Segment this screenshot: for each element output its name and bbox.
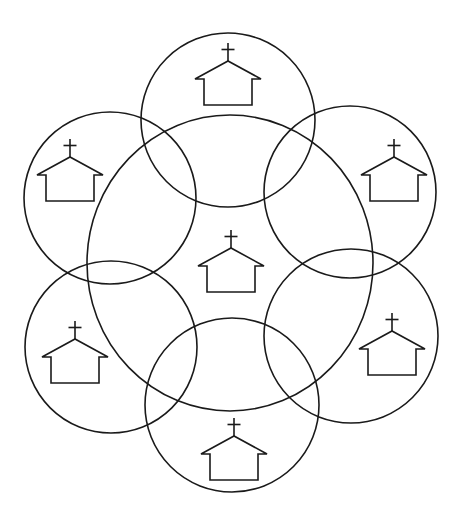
- church-icon-top-left: [37, 139, 103, 201]
- church-icon-top: [195, 43, 261, 105]
- church-icon-bottom: [201, 418, 267, 480]
- diagram-canvas: [0, 0, 461, 519]
- church-icon-center: [198, 230, 264, 292]
- church-icon-bottom-right: [359, 313, 425, 375]
- church-circles-diagram: [0, 0, 461, 519]
- circle-top-right: [264, 106, 436, 278]
- circle-bottom-left: [25, 261, 197, 433]
- church-icon-bottom-left: [42, 321, 108, 383]
- circles-layer: [24, 33, 438, 492]
- circle-bottom: [145, 318, 319, 492]
- church-icon-top-right: [361, 139, 427, 201]
- circle-top-left: [24, 112, 196, 284]
